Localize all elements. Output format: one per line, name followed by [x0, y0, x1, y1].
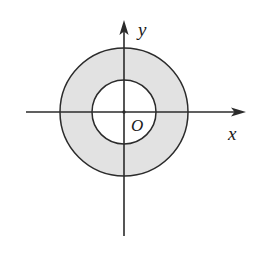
origin-point — [122, 110, 125, 113]
y-axis-label: y — [136, 19, 147, 40]
figure-container: y x O — [0, 0, 272, 257]
coordinate-plane-figure: y x O — [0, 0, 272, 257]
x-axis-label: x — [227, 123, 237, 144]
origin-label: O — [131, 116, 143, 135]
